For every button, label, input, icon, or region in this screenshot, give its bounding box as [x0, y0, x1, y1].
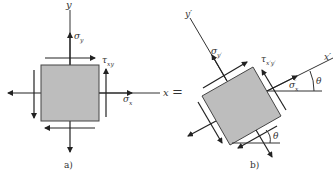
x-axis-label: x: [163, 87, 169, 98]
svg-text:y′: y′: [216, 51, 222, 59]
x-prime-axis-label: x′: [324, 52, 331, 62]
tau-xy-label: τ xy: [102, 55, 114, 68]
theta-label-bottom: θ: [273, 131, 279, 141]
sigma-x-label: σ x: [123, 94, 133, 106]
svg-text:x′: x′: [324, 52, 331, 62]
theta-arc-right: [310, 71, 314, 91]
equals-sign: =: [172, 84, 183, 99]
panel-a-caption: a): [64, 160, 73, 170]
svg-text:y′: y′: [184, 9, 192, 19]
panel-a: y x σ y τ xy σ x a): [8, 0, 169, 170]
diagram-canvas: y x σ y τ xy σ x a) =: [0, 0, 336, 175]
theta-label-right: θ: [316, 76, 322, 86]
svg-text:y: y: [79, 36, 84, 44]
panel-b-caption: b): [250, 160, 259, 170]
tau-x-prime-y-prime-label: τ x′y′: [261, 54, 276, 67]
svg-text:′: ′: [295, 78, 297, 85]
y-prime-axis-label: y′: [184, 9, 192, 19]
y-axis-label: y: [65, 0, 72, 10]
stress-element-square: [41, 65, 99, 121]
sigma-x-prime-arrow-left: [188, 121, 216, 136]
sigma-x-prime-label: σ ′ x: [289, 78, 299, 92]
stress-transformation-diagram: y x σ y τ xy σ x a) =: [0, 0, 336, 175]
svg-text:x: x: [129, 99, 133, 106]
sigma-y-label: σ y: [74, 31, 84, 44]
sigma-y-prime-arrow-up: [212, 55, 227, 81]
svg-text:xy: xy: [107, 60, 114, 68]
svg-text:x′y′: x′y′: [266, 59, 276, 67]
panel-b: y′ x′ σ y′ τ x′y′ σ ′ x θ θ b): [184, 9, 333, 170]
